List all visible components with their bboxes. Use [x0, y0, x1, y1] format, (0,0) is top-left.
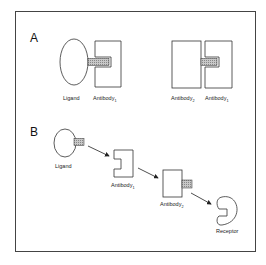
antibody1-shape: [114, 150, 133, 177]
label-antibody1: Antibody1: [93, 95, 117, 103]
antibody2-shape: [163, 170, 182, 197]
antibody2-shape: [172, 41, 201, 88]
ligand-shape: [60, 39, 88, 85]
epitope-shape: [88, 59, 109, 66]
label-antibody2: Antibody2: [160, 201, 184, 209]
panel-a-ligand-antibody1: Ligand Antibody1: [60, 39, 121, 103]
receptor-shape: [217, 197, 237, 225]
ligand-shape: [54, 129, 76, 157]
label-antibody1: Antibody1: [205, 95, 229, 103]
label-ligand: Ligand: [63, 95, 80, 101]
arrow-antibody1-to-antibody2: [138, 168, 158, 178]
panel-a-label: A: [30, 31, 38, 45]
panel-b-label: B: [30, 125, 38, 139]
arrow-ligand-to-antibody1: [88, 146, 109, 156]
label-antibody1: Antibody1: [111, 182, 135, 190]
ligand-epitope-shape: [74, 139, 84, 146]
arrow-antibody2-to-receptor: [191, 193, 211, 204]
label-ligand: Ligand: [55, 163, 72, 169]
antibody2-epitope-shape: [182, 180, 192, 188]
panel-a-antibody2-antibody1: Antibody2 Antibody1: [171, 41, 232, 103]
panel-b-cascade: Ligand Antibody1 Antibody2 Receptor: [54, 129, 247, 234]
anti-idiotype-diagram: A Ligand Antibody1 Antibody2 Antibody1 B…: [0, 0, 266, 265]
antibody2-epitope-shape: [201, 59, 217, 66]
label-antibody2: Antibody2: [171, 95, 195, 103]
label-receptor: Receptor: [216, 228, 238, 234]
